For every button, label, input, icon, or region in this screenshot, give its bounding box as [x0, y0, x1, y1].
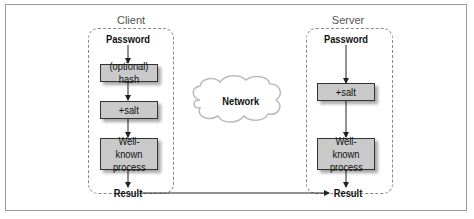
connector-arrows — [0, 0, 474, 219]
server-password-label: Password — [321, 33, 372, 45]
client-result-label: Result — [111, 187, 145, 199]
client-hash-box: (optional) hash — [100, 64, 158, 82]
client-process-line2: process — [113, 161, 146, 174]
client-process-box: Well-known process — [100, 138, 158, 170]
client-hash-label: (optional) hash — [105, 60, 153, 86]
server-process-line2: process — [330, 161, 363, 174]
server-process-line1: Well-known — [322, 135, 370, 161]
client-salt-box: +salt — [100, 101, 158, 119]
server-result-label: Result — [331, 187, 365, 199]
server-process-box: Well-known process — [317, 138, 375, 170]
client-password-label: Password — [103, 33, 154, 45]
client-salt-label: +salt — [119, 104, 139, 117]
network-label: Network — [222, 95, 259, 107]
server-salt-box: +salt — [317, 83, 375, 101]
client-process-line1: Well-known — [105, 135, 153, 161]
server-salt-label: +salt — [336, 86, 356, 99]
